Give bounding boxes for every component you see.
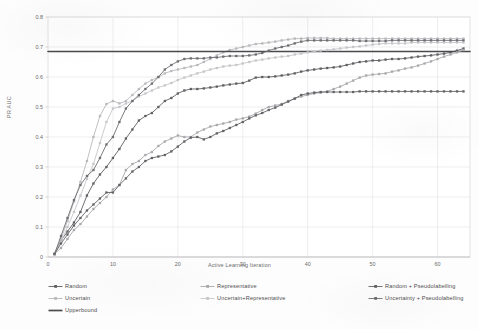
series-marker: [378, 37, 380, 39]
series-marker: [287, 55, 289, 57]
series-marker: [105, 196, 107, 198]
chart-svg: 00.10.20.30.40.50.60.70.80102030405060: [0, 0, 479, 276]
series-marker: [86, 215, 88, 217]
series-marker: [105, 103, 107, 105]
series-marker: [216, 67, 218, 69]
series-marker: [423, 55, 425, 57]
series-marker: [307, 37, 309, 39]
series-marker: [268, 76, 270, 78]
series-marker: [183, 89, 185, 91]
series-marker: [196, 57, 198, 59]
series-marker: [235, 47, 237, 49]
series-marker: [222, 122, 224, 124]
series-marker: [79, 194, 81, 196]
legend-item[interactable]: Random: [48, 280, 97, 292]
series-marker: [105, 166, 107, 168]
series-marker: [66, 230, 68, 232]
legend-item[interactable]: Representative: [200, 280, 285, 292]
series-marker: [112, 100, 114, 102]
series-marker: [216, 56, 218, 58]
series-marker: [255, 59, 257, 61]
series-marker: [397, 39, 399, 41]
series-marker: [157, 106, 159, 108]
series-marker: [268, 109, 270, 111]
legend-item[interactable]: Upperbound: [48, 304, 97, 316]
series-marker: [248, 61, 250, 63]
series-marker: [391, 39, 393, 41]
series-marker: [352, 91, 354, 93]
series-marker: [229, 64, 231, 66]
series-marker: [268, 57, 270, 59]
series-marker: [371, 43, 373, 45]
series-marker: [365, 60, 367, 62]
legend-column-3: Random + PseudolabellingUncertainty + Ps…: [368, 280, 464, 304]
series-marker: [391, 90, 393, 92]
series-marker: [320, 37, 322, 39]
series-marker: [346, 46, 348, 48]
series-marker: [151, 82, 153, 84]
series-marker: [255, 43, 257, 45]
series-marker: [183, 58, 185, 60]
series-marker: [358, 37, 360, 39]
series-marker: [320, 39, 322, 41]
series-marker: [274, 56, 276, 58]
series-marker: [333, 88, 335, 90]
series-marker: [177, 68, 179, 70]
series-marker: [99, 115, 101, 117]
legend-item[interactable]: Uncertainty + Pseudolabelling: [368, 292, 464, 304]
series-marker: [235, 82, 237, 84]
series-marker: [66, 226, 68, 228]
series-marker: [235, 118, 237, 120]
series-marker: [196, 136, 198, 138]
series-marker: [248, 54, 250, 56]
series-marker: [281, 74, 283, 76]
series-marker: [170, 70, 172, 72]
series-marker: [118, 106, 120, 108]
series-marker: [112, 107, 114, 109]
legend-item[interactable]: Random + Pseudolabelling: [368, 280, 464, 292]
series-marker: [391, 58, 393, 60]
series-marker: [151, 79, 153, 81]
legend-item[interactable]: Uncertain: [48, 292, 97, 304]
series-marker: [300, 37, 302, 39]
series-marker: [170, 137, 172, 139]
series-marker: [430, 54, 432, 56]
series-marker: [281, 46, 283, 48]
series-marker: [177, 145, 179, 147]
series-marker: [313, 50, 315, 52]
legend-column-1: RandomUncertainUpperbound: [48, 280, 97, 316]
series-marker: [242, 117, 244, 119]
legend-column-2: RepresentativeUncertain+Representative: [200, 280, 285, 304]
series-marker: [255, 76, 257, 78]
series-marker: [294, 53, 296, 55]
legend-label: Representative: [217, 283, 257, 289]
series-marker: [164, 100, 166, 102]
series-marker: [229, 127, 231, 129]
series-marker: [339, 91, 341, 93]
series-marker: [203, 70, 205, 72]
y-tick-label: 0.2: [36, 194, 44, 200]
series-marker: [190, 88, 192, 90]
series-marker: [73, 211, 75, 213]
series-marker: [86, 178, 88, 180]
series-marker: [274, 75, 276, 77]
y-tick-label: 0.6: [36, 74, 44, 80]
series-marker: [170, 64, 172, 66]
series-marker: [131, 163, 133, 165]
series-marker: [358, 90, 360, 92]
series-marker: [261, 52, 263, 54]
series-marker: [287, 44, 289, 46]
series-marker: [456, 39, 458, 41]
series-marker: [333, 39, 335, 41]
legend-item[interactable]: Uncertain+Representative: [200, 292, 285, 304]
series-marker: [255, 114, 257, 116]
series-marker: [346, 64, 348, 66]
series-marker: [365, 74, 367, 76]
series-marker: [384, 90, 386, 92]
series-marker: [209, 86, 211, 88]
series-marker: [203, 87, 205, 89]
series-marker: [203, 57, 205, 59]
series-marker: [79, 211, 81, 213]
series-marker: [183, 136, 185, 138]
series-marker: [287, 73, 289, 75]
